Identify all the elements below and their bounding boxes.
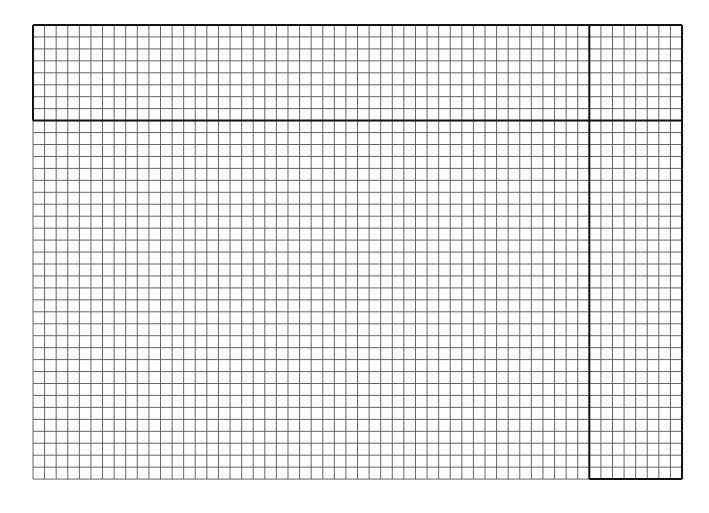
grid-canvas [0,0,709,513]
